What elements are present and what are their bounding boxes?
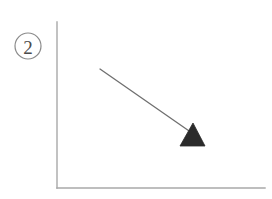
trend-arrow-head (180, 123, 205, 146)
trend-arrow-shaft (100, 69, 192, 133)
figure-number-text: 2 (23, 37, 33, 58)
figure-container: 2 Figure labeled 2: empty plot axes with… (0, 0, 272, 199)
circled-number-label: 2 (15, 33, 41, 59)
figure-canvas: 2 (0, 0, 272, 199)
